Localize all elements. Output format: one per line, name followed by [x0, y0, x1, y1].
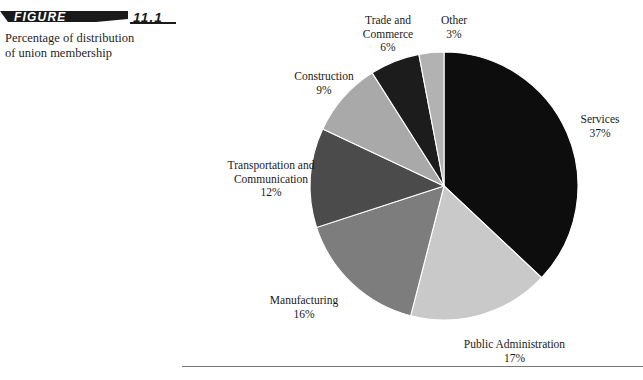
figure-bottom-rule — [182, 366, 643, 367]
slice-label-name: Construction — [278, 70, 370, 84]
slice-label-transportation-and-communication: Transportation and Communication 12% — [204, 159, 338, 200]
slice-label-name: Transportation and — [204, 159, 338, 173]
slice-label-value: 6% — [352, 41, 424, 55]
slice-label-name-2: Communication — [204, 173, 338, 187]
slice-label-other: Other 3% — [432, 14, 476, 41]
slice-label-manufacturing: Manufacturing 16% — [254, 294, 354, 321]
slice-label-value: 12% — [204, 186, 338, 200]
slice-label-trade-and-commerce: Trade and Commerce 6% — [352, 14, 424, 55]
slice-label-name: Public Administration — [447, 338, 582, 352]
slice-label-value: 3% — [432, 28, 476, 42]
slice-label-name: Other — [432, 14, 476, 28]
slice-label-name: Services — [572, 113, 628, 127]
slice-label-name-2: Commerce — [352, 28, 424, 42]
slice-label-public-administration: Public Administration 17% — [447, 338, 582, 365]
slice-label-construction: Construction 9% — [278, 70, 370, 97]
slice-label-name: Trade and — [352, 14, 424, 28]
slice-label-value: 16% — [254, 308, 354, 322]
slice-label-services: Services 37% — [572, 113, 628, 140]
pie-chart: Trade and Commerce 6% Other 3% Construct… — [0, 0, 643, 380]
slice-label-value: 17% — [447, 352, 582, 366]
slice-label-value: 9% — [278, 84, 370, 98]
slice-label-value: 37% — [572, 127, 628, 141]
slice-label-name: Manufacturing — [254, 294, 354, 308]
